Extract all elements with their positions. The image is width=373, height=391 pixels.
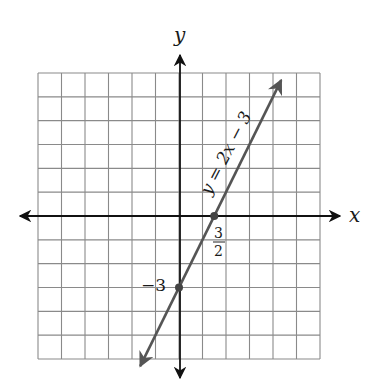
coordinate-plane: y x −3 3 2 y = 2x − 3 (0, 0, 373, 391)
graph-line (140, 80, 281, 366)
y-axis-label: y (173, 23, 186, 47)
x-intercept-point (210, 212, 218, 220)
x-intercept-numerator: 3 (214, 225, 223, 241)
y-intercept-label: −3 (141, 275, 166, 295)
x-intercept-denominator: 2 (214, 243, 223, 259)
y-intercept-point (175, 284, 183, 292)
x-axis-label: x (349, 203, 360, 227)
